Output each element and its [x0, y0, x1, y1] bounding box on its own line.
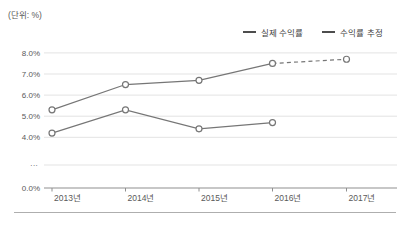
line-chart: 8.0%7.0%6.0%5.0%4.0%···0.0%2013년2014년201… [0, 0, 400, 225]
data-point-marker [270, 120, 276, 126]
y-axis-break-label: ··· [30, 161, 38, 170]
y-axis-zero-label: 0.0% [22, 184, 40, 193]
x-axis-label: 2016년 [275, 193, 302, 203]
data-point-marker [196, 126, 202, 132]
y-axis-label: 5.0% [22, 112, 40, 121]
y-axis-label: 7.0% [22, 70, 40, 79]
series-line-estimated-projection-dashed [273, 59, 347, 63]
x-axis-label: 2014년 [128, 193, 155, 203]
x-axis-label: 2013년 [54, 193, 81, 203]
x-axis-label: 2017년 [349, 193, 376, 203]
y-axis-label: 4.0% [22, 133, 40, 142]
data-point-marker [49, 130, 55, 136]
data-point-marker [196, 77, 202, 83]
data-point-marker [49, 107, 55, 113]
data-point-marker [270, 60, 276, 66]
data-point-marker [123, 107, 129, 113]
x-axis-label: 2015년 [201, 193, 228, 203]
y-axis-label: 6.0% [22, 91, 40, 100]
series-line-estimated [52, 63, 273, 109]
data-point-marker [123, 82, 129, 88]
data-point-marker [344, 56, 350, 62]
bottom-separator [14, 212, 396, 213]
series-line-actual [52, 110, 273, 133]
y-axis-label: 8.0% [22, 49, 40, 58]
